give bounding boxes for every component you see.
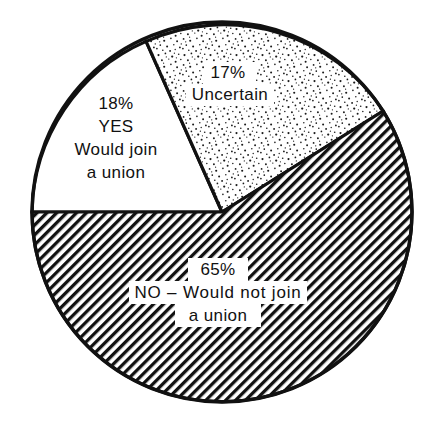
pie-chart-figure: 18% YES Would join a union 17% Uncertain… xyxy=(0,0,435,423)
pie-chart-svg xyxy=(0,0,435,423)
